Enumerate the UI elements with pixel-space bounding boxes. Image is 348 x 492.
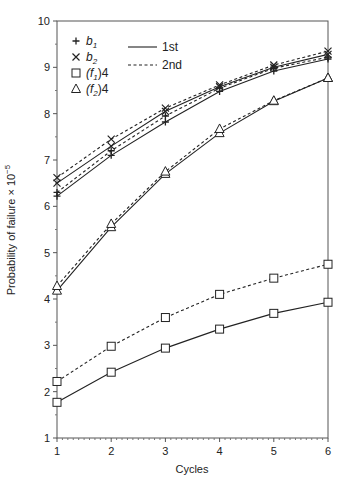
legend-item-label: (f1)4 <box>86 66 109 82</box>
x-axis-title: Cycles <box>175 463 209 475</box>
triangle-marker-icon <box>215 124 224 133</box>
series-line <box>57 264 328 381</box>
legend-item-label: b1 <box>86 34 97 50</box>
square-marker-icon <box>270 274 278 282</box>
legend-line-label: 1st <box>162 40 179 54</box>
triangle-marker-icon <box>324 73 333 82</box>
square-marker-icon <box>161 344 169 352</box>
square-marker-icon <box>216 290 224 298</box>
x-tick-label: 6 <box>325 445 331 457</box>
y-tick-label: 7 <box>44 154 50 166</box>
series--f2-4-2nd <box>53 73 333 290</box>
y-tick-label: 9 <box>44 61 50 73</box>
square-marker-icon <box>72 69 80 77</box>
x-tick-label: 1 <box>54 445 60 457</box>
series-line <box>57 78 328 286</box>
x-tick-label: 3 <box>162 445 168 457</box>
series-line <box>57 302 328 402</box>
plus-marker-icon <box>162 119 169 126</box>
y-axis-title: Probability of failure × 10−5 <box>3 164 17 295</box>
y-tick-label: 3 <box>44 339 50 351</box>
y-tick-label: 6 <box>44 200 50 212</box>
square-marker-icon <box>53 398 61 406</box>
y-tick-label: 4 <box>44 293 50 305</box>
triangle-marker-icon <box>72 84 81 93</box>
square-marker-icon <box>107 368 115 376</box>
x-tick-label: 5 <box>271 445 277 457</box>
square-marker-icon <box>324 260 332 268</box>
triangle-marker-icon <box>53 281 62 290</box>
triangle-marker-icon <box>161 167 170 176</box>
square-marker-icon <box>270 309 278 317</box>
cross-marker-icon <box>73 54 80 61</box>
legend-item-label: (f2)4 <box>86 82 109 98</box>
series--f1-4-1st <box>53 298 332 406</box>
square-marker-icon <box>53 377 61 385</box>
svg-text:Probability of failure × 10−5: Probability of failure × 10−5 <box>3 164 17 295</box>
y-tick-label: 1 <box>44 432 50 444</box>
cross-marker-icon <box>108 136 115 143</box>
legend-line-label: 2nd <box>162 58 182 72</box>
x-axis: 123456 <box>54 438 331 457</box>
series-group <box>53 48 333 407</box>
line-chart: 12345678910 123456 b1b2(f1)4(f2)41st2nd … <box>0 0 348 492</box>
legend: b1b2(f1)4(f2)41st2nd <box>72 34 183 98</box>
y-tick-label: 2 <box>44 386 50 398</box>
triangle-marker-icon <box>107 219 116 228</box>
square-marker-icon <box>324 298 332 306</box>
legend-item-label: b2 <box>86 50 98 66</box>
y-axis-title-text: Probability of failure × 10 <box>5 174 17 295</box>
y-tick-label: 5 <box>44 247 50 259</box>
y-axis-title-exponent: −5 <box>3 164 12 174</box>
y-tick-label: 10 <box>38 15 50 27</box>
square-marker-icon <box>216 325 224 333</box>
series--f1-4-2nd <box>53 260 332 385</box>
series-b2-1st <box>54 51 332 187</box>
plus-marker-icon <box>73 38 80 45</box>
x-tick-label: 4 <box>217 445 223 457</box>
y-tick-label: 8 <box>44 108 50 120</box>
square-marker-icon <box>107 342 115 350</box>
square-marker-icon <box>161 314 169 322</box>
series-line <box>57 78 328 291</box>
x-tick-label: 2 <box>108 445 114 457</box>
